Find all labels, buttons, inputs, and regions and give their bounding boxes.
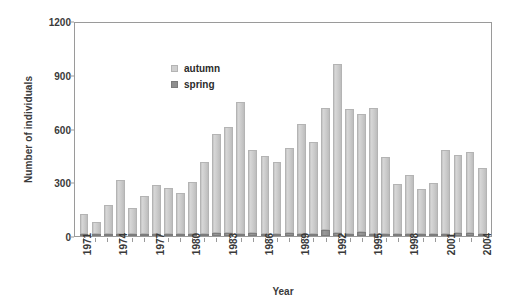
bar-segment-autumn: [309, 142, 318, 233]
stacked-bar: [357, 114, 366, 236]
bar-segment-spring: [140, 234, 149, 236]
bar-segment-autumn: [357, 114, 366, 232]
bar-group: [392, 23, 404, 236]
x-axis-tick-mark: [459, 238, 460, 242]
x-axis-tick: 2004: [477, 238, 489, 282]
x-axis-tick-mark: [362, 238, 363, 242]
x-axis-tick-mark: [204, 238, 205, 242]
bar-group: [259, 23, 271, 236]
stacked-bar: [405, 175, 414, 236]
bar-group: [78, 23, 90, 236]
stacked-bar: [285, 148, 294, 236]
bar-segment-spring: [285, 233, 294, 236]
stacked-bar: [478, 168, 487, 236]
bar-segment-autumn: [188, 182, 197, 233]
x-axis-tick-mark: [107, 238, 108, 242]
bar-segment-autumn: [164, 188, 173, 234]
bar-segment-spring: [466, 233, 475, 236]
stacked-bar: [212, 134, 221, 236]
stacked-bar: [104, 205, 113, 236]
x-axis-tick-mark: [144, 238, 145, 242]
x-axis-tick: [210, 238, 222, 282]
bar-group: [223, 23, 235, 236]
bar-group: [464, 23, 476, 236]
x-axis-tick-mark: [180, 238, 181, 242]
x-axis-tick: [101, 238, 113, 282]
x-axis-tick-mark: [216, 238, 217, 242]
bar-group: [476, 23, 488, 236]
x-axis-tick: 1989: [295, 238, 307, 282]
bar-segment-autumn: [393, 184, 402, 233]
bar-segment-autumn: [224, 127, 233, 233]
stacked-bar: [140, 196, 149, 236]
bar-group: [355, 23, 367, 236]
bar-segment-autumn: [321, 108, 330, 229]
x-axis-tick-mark: [168, 238, 169, 242]
bar-group: [307, 23, 319, 236]
bar-segment-autumn: [80, 214, 89, 234]
plot-area: autumnspring: [74, 22, 492, 237]
x-axis-tick-mark: [386, 238, 387, 242]
bar-group: [175, 23, 187, 236]
x-axis-tick: [344, 238, 356, 282]
stacked-bar: [200, 162, 209, 236]
x-axis-tick: [320, 238, 332, 282]
bar-group: [138, 23, 150, 236]
bar-group: [114, 23, 126, 236]
x-axis-tick: [198, 238, 210, 282]
x-axis-tick-mark: [398, 238, 399, 242]
stacked-bar: [176, 193, 185, 236]
x-axis-tick-mark: [326, 238, 327, 242]
bar-group: [380, 23, 392, 236]
bar-group: [368, 23, 380, 236]
x-axis-tick: [356, 238, 368, 282]
x-axis-tick: [392, 238, 404, 282]
x-axis-tick: [417, 238, 429, 282]
bar-group: [102, 23, 114, 236]
stacked-bar: [393, 184, 402, 236]
bar-segment-autumn: [333, 64, 342, 233]
x-axis-tick-mark: [423, 238, 424, 242]
stacked-bar: [321, 108, 330, 236]
stacked-bar: [164, 188, 173, 236]
bar-group: [343, 23, 355, 236]
bar-group: [440, 23, 452, 236]
x-axis-tick: 1980: [186, 238, 198, 282]
x-axis-tick: 1995: [368, 238, 380, 282]
x-axis-tick: 1977: [150, 238, 162, 282]
bar-series-group: [75, 23, 491, 236]
bar-group: [271, 23, 283, 236]
bar-segment-autumn: [212, 134, 221, 233]
bar-segment-autumn: [152, 185, 161, 234]
stacked-bar: [441, 150, 450, 236]
bar-segment-autumn: [466, 152, 475, 233]
stacked-bar: [261, 156, 270, 236]
stacked-bar: [297, 124, 306, 236]
bar-group: [247, 23, 259, 236]
x-axis-tick: [429, 238, 441, 282]
x-axis-tick-mark: [350, 238, 351, 242]
x-axis-ticks: 1971197419771980198319861989199219951998…: [74, 238, 492, 282]
bar-group: [150, 23, 162, 236]
bar-segment-autumn: [248, 150, 257, 233]
bar-segment-autumn: [116, 180, 125, 233]
stacked-bar: [345, 109, 354, 236]
stacked-bar: [466, 152, 475, 236]
bar-segment-spring: [212, 233, 221, 236]
bar-segment-autumn: [369, 108, 378, 234]
x-axis-tick: 1983: [223, 238, 235, 282]
stacked-bar: [152, 185, 161, 236]
bar-group: [283, 23, 295, 236]
x-axis-tick: [162, 238, 174, 282]
bar-segment-autumn: [297, 124, 306, 234]
bar-group: [404, 23, 416, 236]
stacked-bar: [128, 208, 137, 236]
stacked-bar: [116, 180, 125, 236]
x-axis-tick: [235, 238, 247, 282]
stacked-bar: [236, 102, 245, 236]
x-axis-tick: 1971: [77, 238, 89, 282]
y-axis-tick-label: 300: [27, 178, 71, 189]
x-axis-tick: [283, 238, 295, 282]
bar-chart: Number of individuals 03006009001200 aut…: [0, 0, 509, 305]
bar-segment-spring: [393, 234, 402, 236]
